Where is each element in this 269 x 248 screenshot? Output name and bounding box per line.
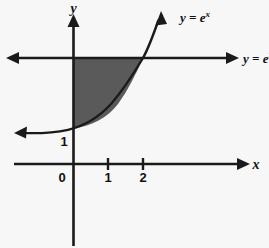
x-axis-label: x <box>252 157 260 172</box>
line-equation-lhs: y = e <box>241 51 269 66</box>
curve-left-arrow-icon <box>14 127 27 139</box>
level-line-right-arrow-icon <box>226 52 239 64</box>
x-tick-label-1: 1 <box>104 170 111 185</box>
graph-canvas: 0 1 2 1 x y y = ex y = e2 <box>0 0 269 248</box>
origin-label: 0 <box>58 170 65 185</box>
line-equation-exponent: 2 <box>268 50 269 60</box>
curve-equation-exponent: x <box>204 9 210 19</box>
curve-top-arrow-icon <box>156 11 168 26</box>
y-axis-label: y <box>68 1 77 16</box>
x-tick-label-2: 2 <box>139 170 146 185</box>
shaded-area-region <box>74 58 144 129</box>
exponential-graph-figure: 0 1 2 1 x y y = ex y = e2 <box>0 0 269 248</box>
level-line-left-arrow-icon <box>6 52 19 64</box>
x-axis-right-arrow-icon <box>237 158 250 170</box>
line-equation-label: y = e2 <box>241 50 269 66</box>
curve-equation-label: y = ex <box>178 9 210 25</box>
y-tick-label-1: 1 <box>60 134 67 149</box>
curve-equation-lhs: y = e <box>178 10 206 25</box>
